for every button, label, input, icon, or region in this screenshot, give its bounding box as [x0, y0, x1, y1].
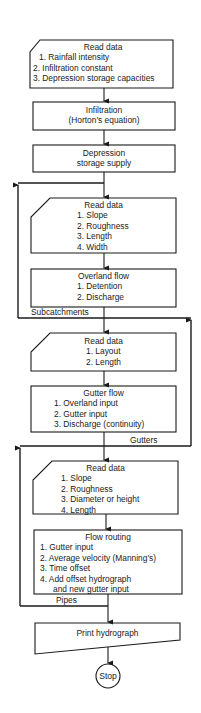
- depression-title: Depression: [33, 148, 175, 158]
- read-data-2-item: 3. Length: [77, 231, 176, 241]
- gutter-flow-node: Gutter flow 1. Overland input 2. Gutter …: [31, 388, 176, 430]
- overland-flow-item: 1. Detention: [77, 281, 176, 291]
- infiltration-subtitle: (Horton’s equation): [33, 115, 175, 125]
- infiltration-title: Infiltration: [33, 105, 175, 115]
- gutter-flow-item: 1. Overland input: [54, 398, 176, 408]
- pipes-loop-label: Pipes: [56, 595, 77, 605]
- read-data-1-node: Read data 1. Rainfall intensity 2. Infil…: [33, 42, 173, 84]
- gutter-flow-title: Gutter flow: [31, 388, 176, 398]
- read-data-4-item: 4. Length: [61, 505, 178, 515]
- flow-routing-item: and new gutter input: [40, 584, 182, 594]
- read-data-1-item: 1. Rainfall intensity: [33, 52, 173, 62]
- overland-flow-item: 2. Discharge: [77, 292, 176, 302]
- read-data-4-item: 2. Roughness: [61, 484, 178, 494]
- read-data-3-item: 2. Length: [86, 357, 176, 367]
- subcatchments-loop-label: Subcatchments: [31, 307, 89, 317]
- depression-node: Depression storage supply: [33, 148, 175, 169]
- print-hydrograph-title: Print hydrograph: [35, 628, 180, 638]
- flow-routing-item: 3. Time offset: [40, 563, 182, 573]
- read-data-4-title: Read data: [33, 463, 178, 473]
- infiltration-node: Infiltration (Horton’s equation): [33, 105, 175, 126]
- gutters-loop-label: Gutters: [130, 435, 157, 445]
- read-data-2-title: Read data: [31, 200, 176, 210]
- flow-routing-item: 1. Gutter input: [40, 542, 182, 552]
- read-data-1-item: 3. Depression storage capacities: [33, 73, 173, 83]
- read-data-1-item: 2. Infiltration constant: [33, 63, 173, 73]
- read-data-3-item: 1. Layout: [86, 346, 176, 356]
- overland-flow-title: Overland flow: [31, 271, 176, 281]
- overland-flow-node: Overland flow 1. Detention 2. Discharge: [31, 271, 176, 302]
- read-data-4-item: 3. Diameter or height: [61, 494, 178, 504]
- flow-routing-item: 2. Average velocity (Manning’s): [40, 553, 182, 563]
- read-data-2-item: 2. Roughness: [77, 221, 176, 231]
- stop-terminal-label: Stop: [96, 671, 120, 681]
- flow-routing-title: Flow routing: [34, 532, 182, 542]
- read-data-3-node: Read data 1. Layout 2. Length: [31, 336, 176, 367]
- read-data-1-title: Read data: [33, 42, 173, 52]
- read-data-2-item: 1. Slope: [77, 210, 176, 220]
- read-data-2-node: Read data 1. Slope 2. Roughness 3. Lengt…: [31, 200, 176, 252]
- gutter-flow-item: 2. Gutter input: [54, 409, 176, 419]
- read-data-4-item: 1. Slope: [61, 473, 178, 483]
- depression-subtitle: storage supply: [33, 158, 175, 168]
- read-data-2-item: 4. Width: [77, 242, 176, 252]
- read-data-3-title: Read data: [31, 336, 176, 346]
- read-data-4-node: Read data 1. Slope 2. Roughness 3. Diame…: [33, 463, 178, 515]
- flow-routing-node: Flow routing 1. Gutter input 2. Average …: [34, 532, 182, 594]
- flow-routing-item: 4. Add offset hydrograph: [40, 574, 182, 584]
- gutter-flow-item: 3. Discharge (continuity): [54, 419, 176, 429]
- print-hydrograph-node: Print hydrograph: [35, 628, 180, 638]
